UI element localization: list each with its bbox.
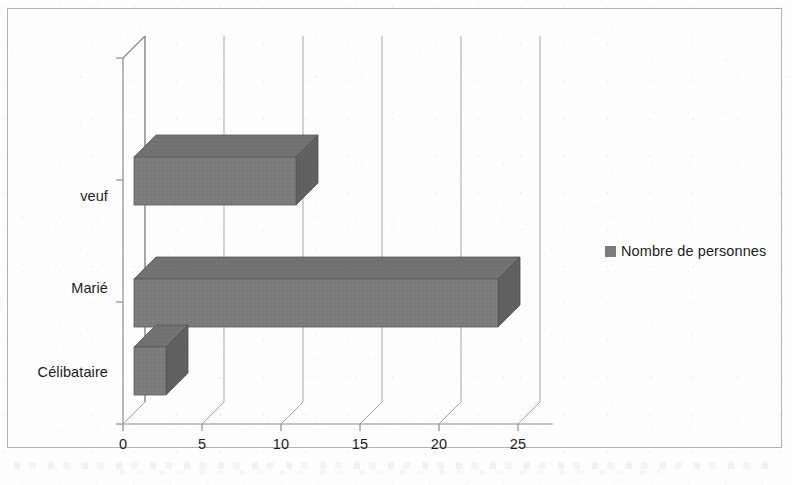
category-label-marie: Marié: [8, 280, 108, 296]
bar-chart-plot: [8, 9, 783, 449]
bar-celibataire: [134, 325, 188, 395]
category-tick-marks: [116, 58, 123, 424]
value-tick-marks: [123, 424, 518, 431]
legend-series-label: Nombre de personnes: [621, 243, 766, 259]
x-tick-label-25: 25: [498, 436, 538, 452]
bar-marie: [134, 257, 520, 327]
chart-gridlines: [145, 36, 540, 402]
category-label-celibataire: Célibataire: [8, 364, 108, 380]
chart-floor-lines: [123, 402, 540, 424]
chart-frame: veuf Marié Célibataire 0 5 10 15 20 25 N…: [7, 8, 782, 448]
scan-artifact-line: [14, 462, 774, 469]
category-label-veuf: veuf: [8, 188, 108, 204]
x-tick-label-15: 15: [340, 436, 380, 452]
x-tick-label-0: 0: [103, 436, 143, 452]
scanned-page: veuf Marié Célibataire 0 5 10 15 20 25 N…: [0, 0, 792, 485]
x-tick-label-5: 5: [182, 436, 222, 452]
legend-swatch-icon: [605, 246, 616, 257]
x-tick-label-20: 20: [419, 436, 459, 452]
bar-veuf: [134, 135, 318, 205]
chart-legend: Nombre de personnes: [605, 243, 766, 259]
scan-artifact-line-secondary: [120, 470, 660, 475]
x-tick-label-10: 10: [261, 436, 301, 452]
